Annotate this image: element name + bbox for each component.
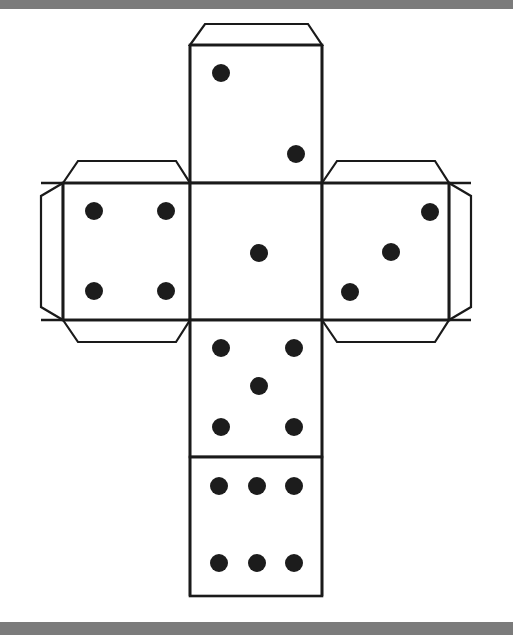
pip-dot-icon	[285, 554, 303, 572]
glue-flap-left-top	[63, 161, 190, 183]
cube-net-drawing	[0, 0, 513, 635]
pip-dot-icon	[285, 418, 303, 436]
glue-flap-right-bottom	[322, 320, 449, 342]
scan-edge-bar-bottom	[0, 622, 513, 635]
top-face	[190, 45, 322, 183]
pip-dot-icon	[248, 477, 266, 495]
glue-flap-left-outer	[41, 183, 63, 320]
pip-dot-icon	[285, 339, 303, 357]
pip-dot-icon	[250, 377, 268, 395]
pip-dot-icon	[212, 339, 230, 357]
pip-dot-icon	[421, 203, 439, 221]
glue-flap-right-top	[322, 161, 449, 183]
pip-dot-icon	[341, 283, 359, 301]
pip-dot-icon	[212, 418, 230, 436]
pip-dot-icon	[210, 477, 228, 495]
pip-dot-icon	[157, 202, 175, 220]
dice-net-page	[0, 0, 513, 635]
pip-dot-icon	[85, 202, 103, 220]
glue-flap-top	[190, 24, 322, 45]
pip-dot-icon	[210, 554, 228, 572]
glue-flap-left-bottom	[63, 320, 190, 342]
pip-dot-icon	[157, 282, 175, 300]
pip-dot-icon	[212, 64, 230, 82]
pip-dot-icon	[287, 145, 305, 163]
pip-dot-icon	[85, 282, 103, 300]
glue-flap-right-outer	[449, 183, 471, 320]
pip-dot-icon	[250, 244, 268, 262]
pip-dot-icon	[382, 243, 400, 261]
pip-dot-icon	[285, 477, 303, 495]
pip-dot-icon	[248, 554, 266, 572]
